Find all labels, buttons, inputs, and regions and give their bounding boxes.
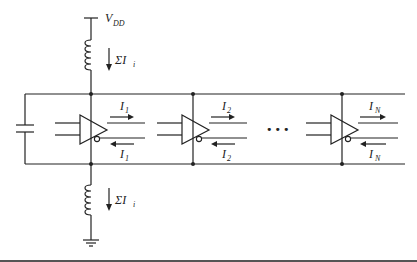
driver-2-ret-sub: 2 [227, 154, 231, 163]
vdd-subscript: DD [112, 19, 125, 28]
ground-icon [83, 240, 99, 246]
driver-N-ret-label: I [368, 147, 374, 161]
driver-1-ret-sub: 1 [125, 154, 129, 163]
driver-N-ret-sub: N [374, 154, 381, 163]
circuit-diagram: V DD ΣI i I 1 I 1 [0, 0, 417, 262]
driver-2-out-sub: 2 [227, 106, 231, 115]
ground-current-label: ΣI [114, 193, 127, 207]
ground-current-subscript: i [133, 200, 135, 209]
driver-N-out-sub: N [374, 106, 381, 115]
vdd-supply: V DD [84, 11, 125, 40]
driver-1: I 1 I 1 [55, 92, 145, 166]
driver-N: I N I N [306, 92, 398, 166]
driver-1-out-sub: 1 [125, 106, 129, 115]
driver-N-out-label: I [368, 99, 374, 113]
decoupling-capacitor-icon [16, 94, 34, 164]
supply-current-subscript: i [133, 60, 135, 69]
ellipsis: ••• [266, 123, 291, 136]
driver-2: I 2 I 2 [157, 92, 247, 166]
supply-current-label: ΣI [114, 53, 127, 67]
supply-inductor-icon: ΣI i [85, 40, 135, 94]
ground-inductor-icon: ΣI i [85, 164, 135, 240]
